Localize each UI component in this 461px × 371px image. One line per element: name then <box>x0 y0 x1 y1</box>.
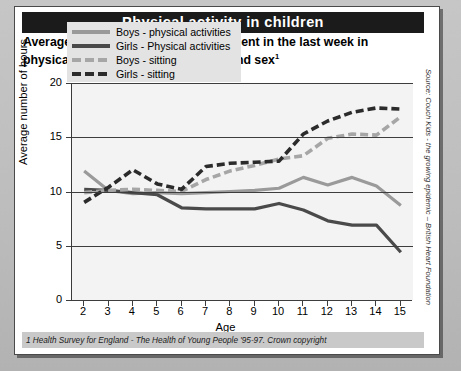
x-axis-tick-label: 4 <box>129 306 135 317</box>
gridline <box>72 83 413 84</box>
x-axis-tick-label: 10 <box>272 306 284 317</box>
x-axis-tick-label: 2 <box>80 306 86 317</box>
legend-swatch-icon <box>72 67 110 81</box>
x-axis-tick-label: 11 <box>297 306 308 317</box>
gridline <box>72 246 413 247</box>
source-note-text: Source: Couch Kids - the growing epidemi… <box>424 69 433 305</box>
legend-item: Girls - Physical activities <box>72 39 237 53</box>
x-axis-tick-label: 9 <box>251 306 257 317</box>
x-axis-tick-label: 6 <box>178 306 184 317</box>
chart-area: 0510152023456789101112131415 Average num… <box>23 69 428 319</box>
subtitle-footnote-marker: 1 <box>275 52 279 61</box>
chart-legend: Boys - physical activitiesGirls - Physic… <box>67 22 241 82</box>
y-axis-tick-mark <box>66 192 71 193</box>
x-axis-tick-label: 15 <box>394 306 406 317</box>
x-axis-tick-label: 12 <box>321 306 333 317</box>
legend-label: Girls - sitting <box>116 69 175 80</box>
plot-area <box>71 83 413 300</box>
x-axis-tick-label: 7 <box>202 306 208 317</box>
gridline <box>72 192 413 193</box>
legend-label: Boys - sitting <box>116 55 177 66</box>
x-axis-line <box>71 300 412 301</box>
legend-item: Girls - sitting <box>72 67 237 81</box>
y-axis-label: Average number of hours <box>17 39 29 165</box>
x-axis-tick-label: 13 <box>345 306 357 317</box>
y-axis-tick-mark <box>66 137 71 138</box>
gridline <box>72 137 413 138</box>
footnote-bar: 1 Health Survey for England - The Health… <box>22 332 424 348</box>
legend-item: Boys - physical activities <box>72 25 237 39</box>
x-axis-tick-label: 5 <box>153 306 159 317</box>
legend-item: Boys - sitting <box>72 53 237 67</box>
chart-card: Physical activity in children Average nu… <box>14 6 440 355</box>
legend-label: Boys - physical activities <box>116 27 231 38</box>
legend-swatch-icon <box>72 53 110 67</box>
legend-swatch-icon <box>72 39 110 53</box>
series-line <box>84 108 401 202</box>
x-axis-tick-label: 3 <box>104 306 110 317</box>
x-axis-tick-label: 8 <box>226 306 232 317</box>
series-line <box>84 117 401 193</box>
legend-swatch-icon <box>72 25 110 39</box>
y-axis-tick-mark <box>66 83 71 84</box>
source-note: Source: Couch Kids - the growing epidemi… <box>422 69 436 315</box>
y-axis-tick-label: 10 <box>23 186 62 197</box>
series-line <box>84 171 401 206</box>
legend-label: Girls - Physical activities <box>116 41 230 52</box>
y-axis-tick-label: 5 <box>23 240 62 251</box>
footnote-text: 1 Health Survey for England - The Health… <box>22 336 326 345</box>
y-axis-tick-label: 0 <box>23 294 62 305</box>
series-line <box>84 189 401 252</box>
x-axis-tick-label: 14 <box>369 306 381 317</box>
y-axis-tick-mark <box>66 246 71 247</box>
page-background: Physical activity in children Average nu… <box>0 0 461 371</box>
